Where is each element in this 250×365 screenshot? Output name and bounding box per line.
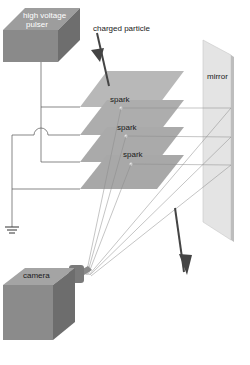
high-voltage-pulser: high voltage pulser	[3, 8, 80, 62]
spark-label-3: spark	[123, 150, 144, 159]
particle-label: charged particle	[93, 24, 150, 33]
camera-label: camera	[23, 271, 50, 280]
circuit-wires	[12, 62, 80, 227]
camera: camera	[3, 265, 92, 340]
mirror-label: mirror	[207, 72, 228, 81]
spark-chamber-diagram: high voltage pulser mirror spark spark s…	[0, 0, 250, 365]
spark-label-2: spark	[117, 123, 138, 132]
ground-icon	[5, 227, 19, 233]
pulser-label-line1: high voltage	[23, 11, 67, 20]
spark-label-1: spark	[110, 95, 131, 104]
mirror: mirror	[203, 40, 234, 242]
pulser-label-line2: pulser	[26, 20, 48, 29]
